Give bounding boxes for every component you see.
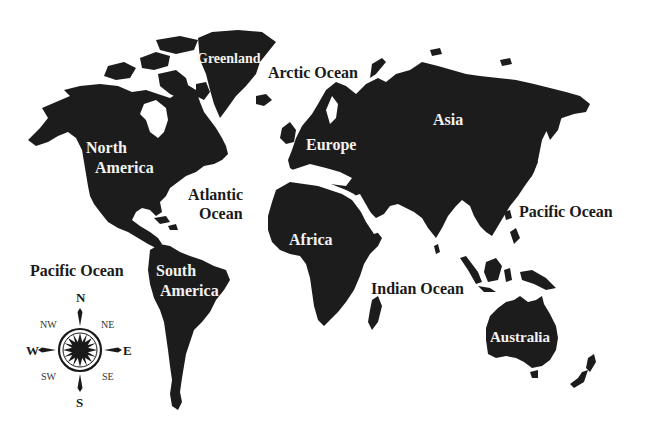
label-asia: Asia — [433, 112, 463, 128]
british-isles — [280, 122, 296, 144]
tasmania — [530, 370, 538, 378]
compass-label-north: N — [76, 291, 85, 304]
philippines — [510, 228, 520, 244]
label-pacific-ocean-west: Pacific Ocean — [30, 263, 124, 279]
label-atlantic-ocean-line1: Atlantic — [188, 187, 243, 203]
compass-label-southeast: SE — [102, 372, 114, 382]
compass-label-southwest: SW — [41, 372, 56, 382]
label-atlantic-ocean-line2: Ocean — [199, 206, 243, 222]
label-arctic-ocean: Arctic Ocean — [268, 65, 358, 81]
compass-pointer-west — [38, 348, 56, 353]
compass-pointer-north — [78, 308, 83, 326]
compass-pointer-east — [104, 348, 122, 353]
compass-label-northwest: NW — [40, 320, 57, 330]
label-north-america-line2: America — [95, 160, 154, 176]
compass-label-west: W — [26, 344, 39, 357]
canadian-arctic-islands — [104, 62, 136, 80]
compass-label-south: S — [76, 396, 83, 409]
iceland — [256, 94, 272, 106]
label-greenland: Greenland — [197, 52, 261, 66]
label-indian-ocean: Indian Ocean — [371, 281, 464, 297]
compass-label-northeast: NE — [101, 320, 114, 330]
label-south-america-line1: South — [156, 263, 196, 279]
new-zealand — [586, 354, 596, 372]
compass-label-east: E — [123, 344, 132, 357]
label-europe: Europe — [306, 137, 356, 153]
compass-pointer-south — [78, 374, 83, 392]
label-australia: Australia — [490, 330, 550, 345]
label-africa: Africa — [289, 232, 333, 248]
label-pacific-ocean-east: Pacific Ocean — [519, 204, 613, 220]
label-north-america-line1: North — [86, 140, 127, 156]
madagascar — [368, 296, 382, 330]
label-south-america-line2: America — [160, 283, 219, 299]
